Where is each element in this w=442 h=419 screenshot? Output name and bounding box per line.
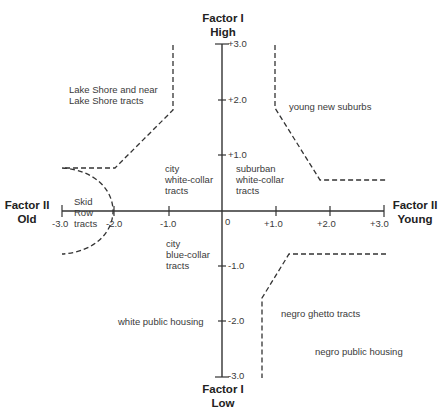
label-city-blue-collar: city blue-collar tracts bbox=[166, 238, 210, 271]
tick-x-p3: +3.0 bbox=[370, 218, 389, 229]
tick-x-m1: -1.0 bbox=[160, 218, 176, 229]
factor2-young-title: Factor II Young bbox=[388, 198, 442, 226]
label-suburban-white-collar: suburban white-collar tracts bbox=[236, 163, 284, 196]
label-white-public-housing: white public housing bbox=[118, 316, 204, 327]
tick-y-p1: +1.0 bbox=[228, 149, 247, 160]
tick-x-0: 0 bbox=[225, 216, 230, 227]
tick-x-m2: -2.0 bbox=[106, 218, 122, 229]
label-negro-public-housing: negro public housing bbox=[315, 346, 403, 357]
label-skid-row: Skid Row tracts bbox=[74, 196, 97, 229]
factor1-low-title: Factor I Low bbox=[198, 382, 248, 410]
label-lake-shore: Lake Shore and near Lake Shore tracts bbox=[69, 84, 158, 106]
label-city-white-collar: city white-collar tracts bbox=[165, 163, 213, 196]
tick-x-p1: +1.0 bbox=[264, 218, 283, 229]
label-young-suburbs: young new suburbs bbox=[289, 101, 371, 112]
tick-y-p3: +3.0 bbox=[228, 38, 247, 49]
tick-y-m1: -1.0 bbox=[228, 260, 244, 271]
tick-y-p2: +2.0 bbox=[228, 94, 247, 105]
young-suburbs-boundary bbox=[275, 45, 386, 180]
lake-shore-boundary bbox=[62, 45, 173, 168]
label-negro-ghetto: negro ghetto tracts bbox=[281, 308, 360, 319]
tick-y-m2: -2.0 bbox=[228, 315, 244, 326]
factor1-high-title: Factor I High bbox=[198, 11, 248, 39]
tick-y-m3: -3.0 bbox=[228, 370, 244, 381]
tick-x-m3: -3.0 bbox=[52, 218, 68, 229]
factor2-old-title: Factor II Old bbox=[2, 198, 52, 226]
tick-x-p2: +2.0 bbox=[317, 218, 336, 229]
